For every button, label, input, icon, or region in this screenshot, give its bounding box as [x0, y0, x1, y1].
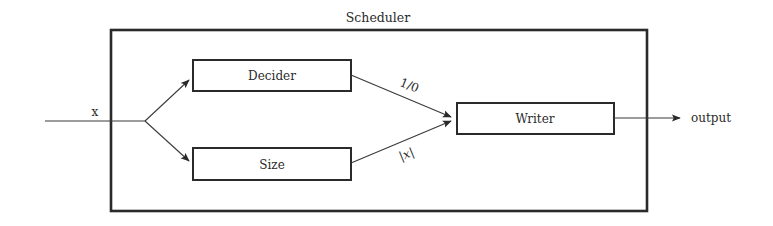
input-edge: x	[45, 105, 145, 121]
decider-block: Decider	[193, 60, 351, 91]
decider-edge-label: 1/0	[398, 75, 421, 95]
edge-input-to-size	[145, 121, 189, 161]
scheduler-label: Scheduler	[346, 10, 410, 25]
decider-label: Decider	[248, 69, 296, 83]
writer-block: Writer	[457, 103, 614, 134]
output-label: output	[691, 111, 731, 125]
input-label: x	[92, 105, 99, 119]
edge-input-to-decider	[145, 80, 189, 121]
size-block: Size	[193, 148, 351, 180]
edge-decider-to-writer: 1/0	[351, 75, 451, 117]
scheduler-diagram: Scheduler x Decider Size Writer 1/0 |x| …	[0, 0, 773, 226]
size-edge-label: |x|	[397, 145, 416, 164]
edge-writer-to-output: output	[614, 111, 731, 125]
size-label: Size	[259, 158, 284, 172]
edge-size-to-writer: |x|	[351, 121, 451, 164]
writer-label: Writer	[515, 112, 554, 126]
